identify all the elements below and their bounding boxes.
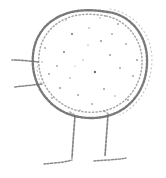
speckle-dot	[87, 44, 88, 45]
speckle-dot	[41, 61, 42, 62]
speckle-dot	[100, 40, 102, 42]
speckle-dot	[119, 67, 121, 69]
speckle-dot	[77, 94, 79, 96]
speckle-dot	[99, 17, 100, 18]
speckle-dot	[51, 97, 53, 99]
speckle-dot	[56, 65, 58, 67]
speckle-dot	[132, 75, 134, 77]
speckle-dot	[88, 27, 90, 29]
speckle-dot	[114, 95, 116, 97]
speckle-dot	[48, 73, 50, 75]
bird-sketch-illustration: Hand-drawn bird sketch A rough pencil sk…	[0, 0, 166, 178]
speckle-dot	[44, 47, 46, 49]
speckle-dot	[59, 87, 61, 89]
speckle-dot	[91, 103, 93, 105]
speckle-dot	[65, 19, 66, 20]
speckle-dot	[63, 51, 65, 53]
speckle-dot	[127, 99, 129, 101]
speckle-dot	[136, 59, 138, 61]
speckle-dot	[74, 65, 75, 66]
speckle-dot	[94, 71, 96, 73]
sketch-canvas: Hand-drawn bird sketch A rough pencil sk…	[0, 0, 166, 178]
speckle-dot	[82, 59, 83, 60]
speckle-dot	[117, 23, 119, 25]
speckle-dot	[79, 109, 80, 110]
speckle-dot	[71, 33, 73, 35]
speckle-dot	[125, 43, 127, 45]
speckle-dot	[111, 33, 113, 35]
speckle-dot	[103, 88, 105, 90]
speckle-dot	[69, 77, 71, 79]
speckle-dot	[109, 54, 111, 56]
